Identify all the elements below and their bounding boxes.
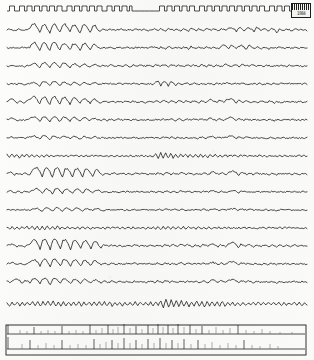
eeg-trace-channel-12 xyxy=(7,226,307,230)
eeg-trace-channel-03 xyxy=(7,62,307,68)
eeg-trace-channel-05 xyxy=(7,96,307,105)
eeg-trace-channel-14 xyxy=(7,259,307,267)
eeg-trace-channel-11 xyxy=(7,207,307,211)
eeg-trace-channel-16 xyxy=(7,299,307,308)
calibration-stamp: 1984 xyxy=(291,3,311,18)
eeg-trace-channel-10 xyxy=(7,188,307,194)
eeg-trace-channel-09 xyxy=(7,167,307,177)
event-box-frame xyxy=(6,325,306,355)
eeg-trace-channel-13 xyxy=(7,239,307,250)
eeg-trace-channel-02 xyxy=(7,42,307,51)
eeg-trace-channel-07 xyxy=(7,135,307,139)
eeg-trace-channel-06 xyxy=(7,117,307,122)
eeg-trace-marker-comb-top xyxy=(7,6,307,11)
eeg-trace-channel-04 xyxy=(7,81,307,86)
eeg-trace-channel-08 xyxy=(7,152,307,158)
eeg-traces-canvas xyxy=(0,0,314,360)
eeg-trace-channel-01 xyxy=(7,23,307,33)
stamp-text: 1984 xyxy=(297,11,305,16)
eeg-trace-channel-15 xyxy=(7,278,307,285)
eeg-chart-sheet: 1984 EEG Chart Recording Multi-channel p… xyxy=(0,0,314,360)
event-marker-group xyxy=(6,324,306,355)
trace-group xyxy=(7,6,307,308)
